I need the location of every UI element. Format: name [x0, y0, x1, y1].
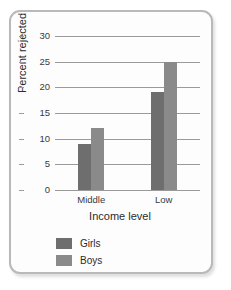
legend-swatch-boys — [56, 255, 72, 266]
y-axis-tick-mark — [19, 36, 24, 37]
legend-label: Boys — [80, 255, 102, 266]
y-axis-tick-mark — [19, 87, 24, 88]
y-axis-tick-mark — [19, 139, 24, 140]
legend-item-girls: Girls — [56, 235, 102, 252]
y-axis-tick-label: 20 — [26, 83, 50, 93]
x-axis-category-label: Middle — [51, 194, 131, 205]
y-axis-tick-mark — [19, 190, 24, 191]
bar-boys-middle — [91, 128, 104, 190]
bar-chart: Percent rejected 051015202530 Income lev… — [0, 0, 231, 290]
y-axis-tick-mark — [19, 164, 24, 165]
gridline — [55, 36, 200, 37]
gridline — [55, 113, 200, 114]
gridline — [55, 139, 200, 140]
plot-area — [55, 36, 200, 190]
y-axis-tick-mark — [19, 62, 24, 63]
chart-legend: GirlsBoys — [56, 235, 102, 269]
legend-label: Girls — [80, 238, 101, 249]
y-axis-tick-label: 15 — [26, 108, 50, 118]
y-axis-tick-mark — [19, 113, 24, 114]
x-axis-title: Income level — [40, 210, 200, 222]
legend-item-boys: Boys — [56, 252, 102, 269]
y-axis-tick-label: 10 — [26, 134, 50, 144]
gridline — [55, 190, 200, 191]
gridline — [55, 164, 200, 165]
bar-girls-middle — [78, 144, 91, 190]
x-axis-category-label: Low — [124, 194, 204, 205]
legend-swatch-girls — [56, 238, 72, 249]
y-axis-tick-label: 30 — [26, 31, 50, 41]
y-axis-tick-label: 0 — [26, 185, 50, 195]
gridline — [55, 87, 200, 88]
y-axis-tick-labels: 051015202530 — [24, 36, 50, 190]
bar-girls-low — [151, 92, 164, 190]
gridline — [55, 62, 200, 63]
y-axis-tick-label: 25 — [26, 57, 50, 67]
bar-boys-low — [164, 62, 177, 190]
y-axis-tick-label: 5 — [26, 160, 50, 170]
